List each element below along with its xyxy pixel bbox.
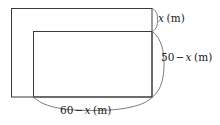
fifty-minus-x-operator: − (175, 51, 186, 63)
brace-x-icon (153, 9, 158, 32)
sixty-minus-x-label: 60−x(m) (60, 105, 111, 116)
fifty-minus-x-unit: (m) (194, 51, 212, 63)
inner-rectangle (34, 32, 153, 98)
sixty-minus-x-number: 60 (60, 104, 74, 116)
x-height-unit: (m) (167, 12, 185, 24)
sixty-minus-x-variable: x (84, 104, 90, 116)
geometry-figure: x(m) 50−x(m) 60−x(m) (0, 0, 220, 125)
fifty-minus-x-variable: x (185, 51, 191, 63)
fifty-minus-x-label: 50−x(m) (161, 52, 212, 63)
brace-50-minus-x-icon (153, 32, 165, 98)
x-height-variable: x (158, 12, 164, 24)
sixty-minus-x-unit: (m) (93, 104, 111, 116)
x-height-label: x(m) (158, 13, 185, 24)
outer-rectangle (12, 9, 153, 98)
sixty-minus-x-operator: − (74, 104, 85, 116)
fifty-minus-x-number: 50 (161, 51, 175, 63)
